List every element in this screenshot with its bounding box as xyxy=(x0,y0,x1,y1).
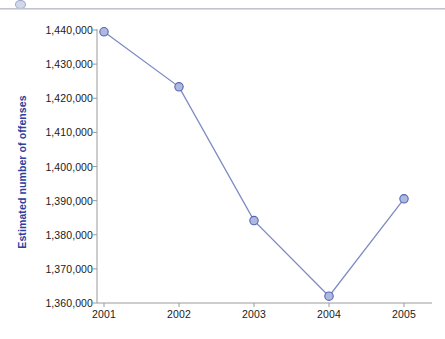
x-axis-tick-label: 2002 xyxy=(167,308,191,320)
y-axis-tick-label: 1,410,000 xyxy=(45,126,93,138)
y-axis-tick-label: 1,430,000 xyxy=(45,58,93,70)
x-axis-tick-label: 2001 xyxy=(92,308,116,320)
data-point-marker xyxy=(175,83,183,91)
chart-figure: Estimated number of offenses 1,360,0001,… xyxy=(0,0,445,339)
y-axis-tick-label: 1,440,000 xyxy=(45,24,93,36)
y-axis-tick-label: 1,370,000 xyxy=(45,263,93,275)
data-point-marker xyxy=(250,216,258,224)
data-point-marker xyxy=(325,292,333,300)
y-axis-tick-label: 1,420,000 xyxy=(45,92,93,104)
data-point-marker xyxy=(100,28,108,36)
y-axis-tick-label: 1,400,000 xyxy=(45,161,93,173)
x-axis-tick-label: 2005 xyxy=(392,308,416,320)
line-chart-plot: Estimated number of offenses 1,360,0001,… xyxy=(0,0,445,339)
y-axis-tick-label: 1,360,000 xyxy=(45,297,93,309)
y-axis-tick-label: 1,380,000 xyxy=(45,229,93,241)
y-axis-tick-label: 1,390,000 xyxy=(45,195,93,207)
x-axis-tick-label: 2003 xyxy=(242,308,266,320)
data-line-series-1 xyxy=(104,32,404,296)
data-point-marker xyxy=(400,195,408,203)
x-axis-tick-label: 2004 xyxy=(317,308,341,320)
